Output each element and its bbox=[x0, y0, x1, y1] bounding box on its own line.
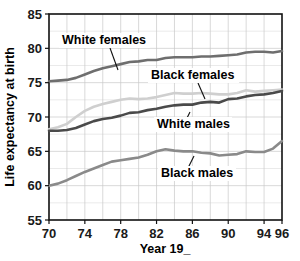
annotation-leader-black-females bbox=[198, 83, 205, 99]
y-tick-label: 75 bbox=[28, 75, 42, 90]
x-tick-label: 74 bbox=[78, 226, 93, 241]
x-tick-label: 70 bbox=[42, 226, 56, 241]
annotation-label-black-females: Black females bbox=[151, 68, 234, 82]
annotation-label-white-females: White females bbox=[62, 33, 146, 47]
x-tick-label: 90 bbox=[221, 226, 235, 241]
x-axis-tick-labels: 7074788286909496 bbox=[42, 226, 289, 241]
y-tick-label: 60 bbox=[28, 178, 42, 193]
y-axis-title: Life expectancy at birth bbox=[3, 47, 17, 187]
x-tick-label: 82 bbox=[149, 226, 163, 241]
x-tick-label: 96 bbox=[275, 226, 289, 241]
chart-canvas: 7074788286909496 55606570758085 White fe… bbox=[0, 0, 300, 261]
x-tick-label: 78 bbox=[113, 226, 127, 241]
annotation-label-black-males: Black males bbox=[161, 166, 233, 180]
y-tick-label: 55 bbox=[28, 213, 42, 228]
x-tick-label: 94 bbox=[257, 226, 272, 241]
y-tick-label: 85 bbox=[28, 7, 42, 22]
x-tick-label: 86 bbox=[185, 226, 199, 241]
y-tick-label: 80 bbox=[28, 41, 42, 56]
y-tick-label: 70 bbox=[28, 110, 42, 125]
annotation-label-white-males: White males bbox=[157, 117, 230, 131]
y-axis-tick-labels: 55606570758085 bbox=[28, 7, 42, 228]
life-expectancy-line-chart: 7074788286909496 55606570758085 White fe… bbox=[0, 0, 300, 261]
y-tick-label: 65 bbox=[28, 144, 42, 159]
x-axis-title: Year 19_ bbox=[140, 242, 192, 256]
